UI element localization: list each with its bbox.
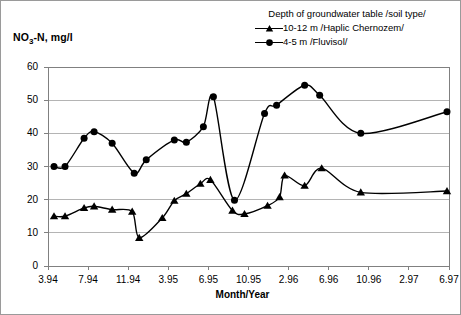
- series-haplic-chernozem: [50, 164, 451, 241]
- x-tick-label: 2.96: [266, 275, 312, 285]
- y-tick-label: 40: [12, 128, 38, 138]
- x-tick-label: 3.95: [145, 275, 191, 285]
- circle-marker-icon: [200, 123, 207, 130]
- y-tick-label: 0: [12, 261, 38, 271]
- triangle-marker-icon: [50, 212, 58, 219]
- plot-svg: [1, 1, 461, 315]
- circle-marker-icon: [131, 170, 138, 177]
- plot-area: 01020304050603.947.9411.943.956.9510.952…: [1, 1, 461, 315]
- x-tick-label: 7.94: [65, 275, 111, 285]
- circle-marker-icon: [357, 130, 364, 137]
- y-tick-label: 10: [12, 228, 38, 238]
- circle-marker-icon: [91, 128, 98, 135]
- circle-marker-icon: [183, 139, 190, 146]
- y-tick-label: 20: [12, 195, 38, 205]
- x-tick-label: 10.96: [346, 275, 392, 285]
- circle-marker-icon: [301, 82, 308, 89]
- x-tick-label: 2.97: [386, 275, 432, 285]
- x-tick-label: 6.95: [185, 275, 231, 285]
- circle-marker-icon: [443, 108, 450, 115]
- y-tick-label: 30: [12, 162, 38, 172]
- circle-marker-icon: [231, 197, 238, 204]
- y-tick-label: 60: [12, 62, 38, 72]
- circle-marker-icon: [316, 92, 323, 99]
- x-tick-label: 6.96: [306, 275, 352, 285]
- circle-marker-icon: [62, 163, 69, 170]
- series-line: [54, 168, 447, 238]
- circle-marker-icon: [51, 163, 58, 170]
- x-axis-title: Month/Year: [1, 289, 461, 300]
- x-tick-label: 3.94: [25, 275, 71, 285]
- circle-marker-icon: [261, 110, 268, 117]
- circle-marker-icon: [143, 156, 150, 163]
- x-tick-label: 6.97: [426, 275, 461, 285]
- circle-marker-icon: [273, 102, 280, 109]
- chart-figure: NO3-N, mg/l Depth of groundwater table /…: [0, 0, 461, 315]
- triangle-marker-icon: [182, 190, 190, 197]
- circle-marker-icon: [210, 93, 217, 100]
- triangle-marker-icon: [263, 202, 271, 209]
- circle-marker-icon: [171, 136, 178, 143]
- triangle-marker-icon: [128, 208, 136, 215]
- x-tick-label: 11.94: [105, 275, 151, 285]
- circle-marker-icon: [109, 140, 116, 147]
- y-tick-label: 50: [12, 95, 38, 105]
- triangle-marker-icon: [280, 171, 288, 178]
- triangle-marker-icon: [206, 176, 214, 183]
- triangle-marker-icon: [317, 164, 325, 171]
- x-tick-label: 10.95: [226, 275, 272, 285]
- triangle-marker-icon: [275, 193, 283, 200]
- circle-marker-icon: [81, 135, 88, 142]
